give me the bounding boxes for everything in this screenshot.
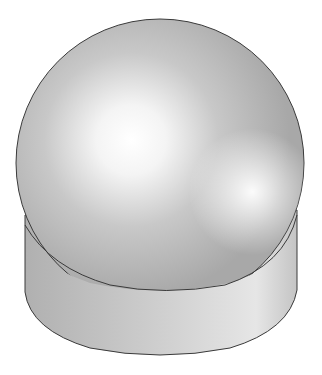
figure-canvas — [0, 0, 322, 375]
sphere-on-cylinder-figure — [0, 0, 322, 375]
